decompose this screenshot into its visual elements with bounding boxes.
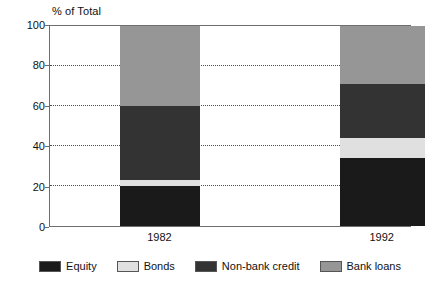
bar-segment	[120, 26, 200, 106]
y-axis-title: % of Total	[52, 5, 101, 17]
legend-label: Bonds	[144, 260, 175, 272]
y-axis-tick-label: 40	[1, 140, 45, 152]
legend-label: Non-bank credit	[222, 260, 300, 272]
legend-item: Non-bank credit	[195, 260, 300, 272]
bar-1982	[120, 26, 200, 226]
legend-swatch	[195, 261, 217, 272]
y-axis-tick-label: 20	[1, 181, 45, 193]
legend-item: Bank loans	[320, 260, 401, 272]
y-axis-tick-label: 100	[1, 19, 45, 31]
legend-label: Bank loans	[347, 260, 401, 272]
x-axis-tick-label-1982: 1982	[147, 231, 171, 243]
y-axis-tick-label: 80	[1, 59, 45, 71]
legend-swatch	[117, 261, 139, 272]
legend-swatch	[320, 261, 342, 272]
y-axis-tick-labels: 020406080100	[0, 25, 45, 227]
legend-swatch	[39, 261, 61, 272]
legend-item: Equity	[39, 260, 97, 272]
bar-segment	[340, 158, 425, 226]
bar-segment	[120, 106, 200, 180]
y-axis-tick-mark	[45, 227, 49, 228]
bar-segment	[340, 84, 425, 138]
x-axis-tick-label-1992: 1992	[369, 231, 393, 243]
bar-segment	[340, 138, 425, 158]
chart-figure: % of Total 020406080100 19821992 EquityB…	[0, 0, 440, 282]
legend-item: Bonds	[117, 260, 175, 272]
bar-segment	[120, 186, 200, 226]
chart-legend: EquityBondsNon-bank creditBank loans	[0, 256, 440, 276]
plot-area	[49, 25, 411, 227]
bar-segment	[120, 180, 200, 186]
bar-1992	[340, 26, 425, 226]
bar-segment	[340, 26, 425, 84]
legend-label: Equity	[66, 260, 97, 272]
y-axis-tick-label: 0	[1, 221, 45, 233]
y-axis-tick-label: 60	[1, 100, 45, 112]
